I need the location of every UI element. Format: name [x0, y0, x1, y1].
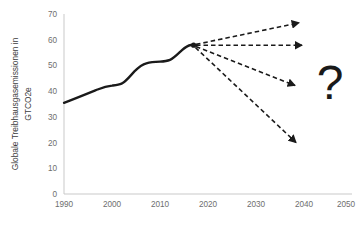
y-tick-label-50: 50	[48, 61, 58, 70]
x-tick-label-2040: 2040	[295, 200, 314, 209]
x-tick-label-2020: 2020	[199, 200, 218, 209]
historical-emissions-line	[64, 45, 194, 103]
y-tick-label-10: 10	[48, 164, 58, 173]
y-tick-label-30: 30	[48, 113, 58, 122]
branch-point-marker	[191, 43, 196, 48]
x-tick-label-2000: 2000	[103, 200, 122, 209]
x-tick-label-1990: 1990	[55, 200, 74, 209]
y-axis-title-line1: Globale Treibhausgasemissionen in	[10, 37, 20, 170]
chart-figure: 0 10 20 30 40 50 60 70 1990 2000 2010 20…	[0, 0, 363, 225]
scenario-arrow-slight-decrease	[196, 47, 295, 86]
x-tick-label-2030: 2030	[247, 200, 266, 209]
y-tick-label-60: 60	[48, 36, 58, 45]
scenario-arrow-strong-increase	[196, 23, 299, 45]
x-tick-label-2050: 2050	[337, 200, 356, 209]
y-tick-label-0: 0	[52, 190, 57, 199]
emissions-scenario-chart: 0 10 20 30 40 50 60 70 1990 2000 2010 20…	[0, 0, 363, 225]
y-axis-title-line2: GTCO2e	[23, 87, 33, 121]
y-tick-label-40: 40	[48, 87, 58, 96]
question-mark-annotation: ?	[317, 56, 344, 109]
scenario-arrow-strong-decrease	[195, 48, 296, 143]
y-tick-label-70: 70	[48, 10, 58, 19]
y-tick-label-20: 20	[48, 139, 58, 148]
x-tick-label-2010: 2010	[151, 200, 170, 209]
